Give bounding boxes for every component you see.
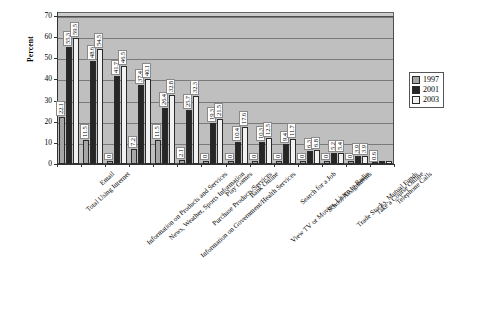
bar-2001 (90, 61, 96, 164)
bar-2003 (362, 156, 368, 164)
bar-group: 09.411.7 (275, 16, 299, 164)
bar-value-label: 7.2 (128, 136, 137, 148)
legend-label-2003: 2003 (423, 95, 439, 105)
bar-2003 (386, 161, 392, 164)
x-tick-mark (274, 164, 275, 167)
bar-2003 (193, 96, 199, 164)
bar-group: 7.237.440.1 (130, 16, 154, 164)
bar-2001 (66, 47, 72, 164)
bar-value-label: 46.5 (118, 50, 127, 65)
bar-value-label: 0 (104, 153, 113, 160)
x-tick-mark (57, 164, 58, 167)
bar-2001 (162, 108, 168, 164)
bar-2001 (235, 142, 241, 164)
x-axis-labels: Total Using InternetEmailInformation on … (0, 168, 484, 278)
bar-2003 (145, 79, 151, 164)
y-tick-label: 60 (32, 32, 52, 41)
bar-1997 (300, 161, 306, 164)
bar-value-label: 5.4 (335, 140, 344, 152)
bar-2003 (338, 153, 344, 164)
bar-2003 (169, 95, 175, 164)
bar-2001 (283, 144, 289, 164)
bar-group: 010.417.6 (227, 16, 251, 164)
bar-value-label: 59.5 (70, 22, 79, 37)
bar-value-label: 10.4 (232, 126, 241, 141)
x-tick-mark (129, 164, 130, 167)
bar-2003 (290, 139, 296, 164)
bar-group: 019.321.5 (202, 16, 226, 164)
bar-1997 (107, 161, 113, 164)
bar-1997 (228, 161, 234, 164)
legend-item-2001: 2001 (412, 85, 439, 95)
x-tick-mark (250, 164, 251, 167)
legend-label-1997: 1997 (423, 75, 439, 85)
bar-value-label: 11.7 (287, 124, 296, 139)
bar-value-label: 0 (200, 153, 209, 160)
bar-value-label: 32.3 (190, 80, 199, 95)
bar-value-label: 40.1 (142, 63, 151, 78)
y-tick-label: 40 (32, 74, 52, 83)
legend-swatch-2003-icon (412, 96, 420, 104)
bar-2001 (331, 153, 337, 164)
bar-2001 (259, 142, 265, 164)
bar-value-label: 0.6 (369, 150, 378, 162)
bar-value-label: 3.9 (359, 143, 368, 155)
bar-value-label: 21.5 (214, 103, 223, 118)
x-tick-mark (81, 164, 82, 167)
bar-group: 11.548.654.5 (82, 16, 106, 164)
bar-2003 (97, 49, 103, 164)
x-tick-mark (394, 164, 395, 167)
bar-1997 (131, 149, 137, 164)
x-tick-mark (177, 164, 178, 167)
y-tick-label: 30 (32, 96, 52, 105)
bar-value-label: 26.4 (159, 92, 168, 107)
bar-2003 (266, 138, 272, 164)
bar-value-label: 0 (321, 153, 330, 160)
legend-swatch-1997-icon (412, 76, 420, 84)
bar-value-label: 2.1 (176, 147, 185, 159)
bar-value-label: 25.7 (183, 94, 192, 109)
bar-1997 (179, 160, 185, 164)
bar-group: 03.93.9 (347, 16, 371, 164)
x-tick-mark (346, 164, 347, 167)
y-tick-label: 70 (32, 11, 52, 20)
bar-group: 041.746.5 (106, 16, 130, 164)
bar-2003 (217, 119, 223, 164)
bar-value-label: 0 (297, 153, 306, 160)
bar-group: 22.155.359.5 (58, 16, 82, 164)
bar-2001 (379, 161, 385, 164)
bar-value-label: 11.5 (80, 124, 89, 139)
bar-1997 (348, 161, 354, 164)
bar-1997 (324, 161, 330, 164)
bar-1997 (155, 140, 161, 164)
bar-value-label: 22.1 (56, 101, 65, 116)
y-tick-label: 10 (32, 138, 52, 147)
y-tick-label: 0 (32, 159, 52, 168)
legend-swatch-2001-icon (412, 86, 420, 94)
bar-value-label: 6.8 (311, 137, 320, 149)
legend-item-1997: 1997 (412, 75, 439, 85)
bar-1997 (252, 161, 258, 164)
bar-1997 (276, 161, 282, 164)
bar-1997 (83, 140, 89, 164)
bar-value-label: 12.5 (263, 122, 272, 137)
bar-group: 0.6 (371, 16, 395, 164)
legend: 1997 2001 2003 (409, 72, 444, 108)
bar-value-label: 32.8 (166, 79, 175, 94)
bar-2003 (242, 127, 248, 164)
x-tick-mark (298, 164, 299, 167)
x-tick-mark (370, 164, 371, 167)
bar-2001 (114, 76, 120, 164)
bar-group: 010.312.5 (251, 16, 275, 164)
bar-group: 06.36.8 (299, 16, 323, 164)
bar-1997 (59, 117, 65, 164)
x-tick-mark (201, 164, 202, 167)
x-tick-label: Information on Products and Services (146, 170, 230, 247)
bar-2001 (138, 85, 144, 164)
bar-2001 (355, 156, 361, 164)
bar-value-label: 0 (225, 153, 234, 160)
bar-1997 (372, 162, 378, 164)
bar-1997 (203, 161, 209, 164)
legend-item-2003: 2003 (412, 95, 439, 105)
x-tick-mark (153, 164, 154, 167)
